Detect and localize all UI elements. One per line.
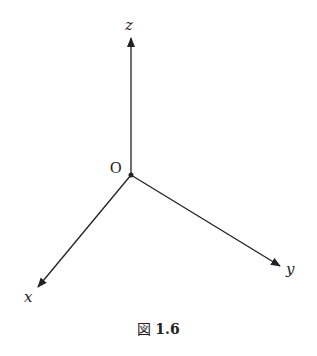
axes-diagram	[0, 0, 317, 356]
x-axis-label: x	[24, 290, 32, 305]
x-axis	[38, 175, 131, 287]
z-axis-label: z	[125, 18, 133, 33]
y-axis-label: y	[286, 262, 294, 277]
y-axis	[131, 175, 280, 266]
origin-label: O	[110, 160, 122, 176]
caption-prefix: 図	[137, 321, 151, 337]
caption-number: 1.6	[155, 321, 179, 337]
origin-point	[129, 173, 134, 178]
figure-caption: 図1.6	[0, 318, 317, 338]
